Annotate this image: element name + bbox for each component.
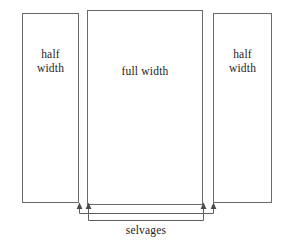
left-half-width-label: half width [22,48,79,75]
left-half-width-label-line1: half [22,48,79,62]
full-width-label: full width [87,65,203,79]
left-half-width-rect [23,14,79,203]
diagram-canvas [0,0,286,246]
right-half-width-label-line1: half [213,48,272,62]
full-width-label-line1: full width [87,65,203,79]
right-half-width-label-line2: width [213,62,272,76]
fabric-layout-diagram: half width full width half width selvage… [0,0,286,246]
up-arrow-icon-1 [77,203,83,210]
selvages-label: selvages [79,224,213,238]
full-width-rect [88,11,203,205]
left-half-width-label-line2: width [22,62,79,76]
inner-selvage-bracket [89,209,204,221]
right-half-width-rect [214,14,272,203]
up-arrow-icon-4 [211,203,217,210]
outer-selvage-bracket [80,209,214,214]
right-half-width-label: half width [213,48,272,75]
